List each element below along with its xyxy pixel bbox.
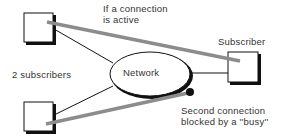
active-connection-label: If a connection is active [103,3,168,25]
network-connection-diagram: If a connection is active Subscriber 2 s… [0,0,285,139]
active-connection-label-line-1: If a connection [103,3,168,14]
subscriber-label: Subscriber [218,36,265,47]
subscriber-box-top-left [24,13,56,45]
blocked-connection-label: Second connection blocked by a ''busy'' [181,105,269,127]
subscriber-box-right [228,52,261,85]
blocked-connection-label-line-1: Second connection [181,105,269,116]
subscriber-box-bottom-left [24,102,56,134]
active-connection-label-line-2: is active [103,14,168,25]
two-subscribers-label: 2 subscribers [12,69,71,80]
busy-block-dot [186,88,194,96]
network-label: Network [123,67,159,78]
blocked-connection-label-line-2: blocked by a ''busy'' [181,116,269,127]
